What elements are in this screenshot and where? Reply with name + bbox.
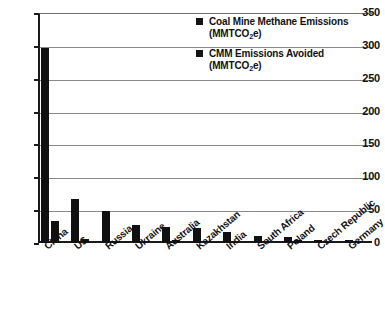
legend-units: (MMTCO2e) bbox=[209, 28, 372, 41]
y-tick-mark bbox=[34, 112, 39, 114]
legend-label: Coal Mine Methane Emissions bbox=[209, 16, 348, 27]
x-axis-labels: ChinaUSRussiaUkraineAustraliaKazakhstanI… bbox=[0, 243, 380, 317]
bar-group bbox=[38, 13, 68, 243]
y-tick-label: 100 bbox=[348, 171, 380, 182]
bar-group bbox=[129, 13, 159, 243]
y-tick-mark bbox=[34, 46, 39, 48]
legend-units: (MMTCO2e) bbox=[209, 60, 372, 73]
chart-legend: Coal Mine Methane Emissions(MMTCO2e)CMM … bbox=[196, 16, 372, 80]
y-tick-label: 150 bbox=[348, 138, 380, 149]
y-tick-mark bbox=[34, 210, 39, 212]
y-tick-mark bbox=[34, 177, 39, 179]
y-tick-mark bbox=[34, 13, 39, 15]
bar-group bbox=[68, 13, 98, 243]
legend-label: CMM Emissions Avoided bbox=[209, 48, 324, 59]
legend-swatch-icon bbox=[196, 50, 203, 57]
y-tick-mark bbox=[34, 79, 39, 81]
legend-entry: Coal Mine Methane Emissions(MMTCO2e) bbox=[196, 16, 372, 41]
y-tick-mark bbox=[34, 144, 39, 146]
bar-group bbox=[159, 13, 189, 243]
y-tick-label: 200 bbox=[348, 106, 380, 117]
legend-entry: CMM Emissions Avoided(MMTCO2e) bbox=[196, 48, 372, 73]
bar-group bbox=[99, 13, 129, 243]
legend-swatch-icon bbox=[196, 18, 203, 25]
bar bbox=[41, 48, 49, 243]
